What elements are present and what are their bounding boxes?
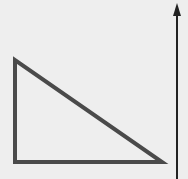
diagram-svg [0,0,188,179]
arrow-up-icon [173,3,181,16]
diagram-canvas [0,0,188,179]
right-triangle [15,60,162,162]
